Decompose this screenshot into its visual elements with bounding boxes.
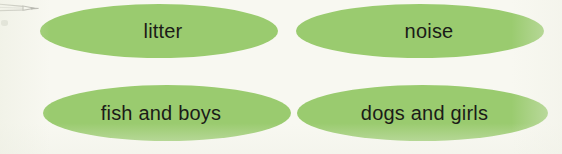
- word-ellipse-noise[interactable]: noise: [296, 4, 544, 58]
- word-ellipse-label: noise: [405, 21, 454, 41]
- word-ellipse-litter[interactable]: litter: [40, 4, 278, 58]
- word-ellipse-label: litter: [144, 21, 183, 41]
- word-ellipse-label: dogs and girls: [361, 103, 488, 123]
- diagram-canvas: litter noise fish and boys dogs and girl…: [0, 0, 562, 154]
- word-ellipse-fish-and-boys[interactable]: fish and boys: [43, 85, 291, 141]
- paper-smudge: [1, 20, 8, 26]
- pencil-pointer-icon: [0, 1, 40, 17]
- word-ellipse-label: fish and boys: [101, 103, 221, 123]
- word-ellipse-dogs-and-girls[interactable]: dogs and girls: [297, 85, 548, 141]
